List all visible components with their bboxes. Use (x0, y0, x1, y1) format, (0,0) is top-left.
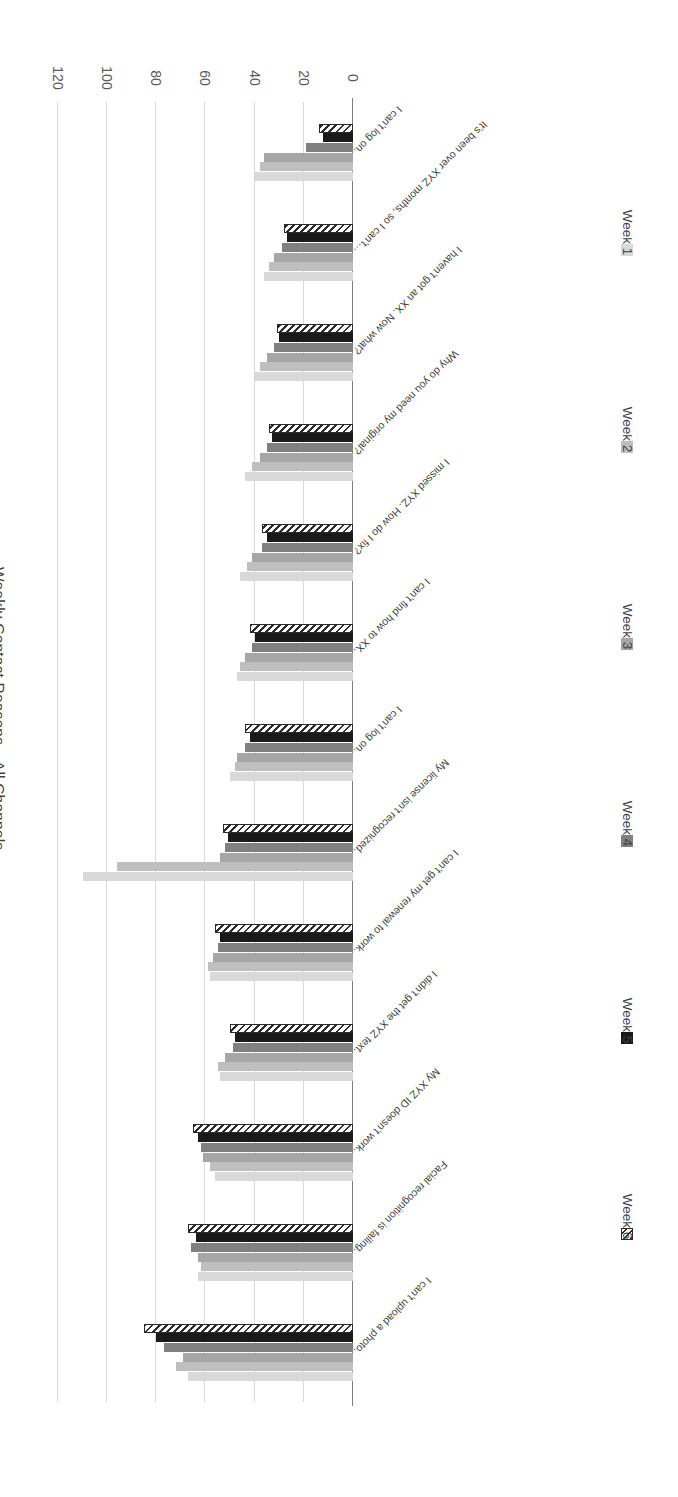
bar (233, 1043, 353, 1052)
bar (245, 743, 353, 752)
bar-group (58, 423, 353, 481)
bar (196, 1233, 353, 1242)
bar (255, 172, 353, 181)
category-label: I can’t get my renewal to work. (352, 721, 588, 957)
category-label: My license isn’t recognized. (352, 621, 588, 857)
bar (262, 524, 353, 533)
bar (230, 1024, 353, 1033)
bar-group (58, 823, 353, 881)
bar-group (58, 723, 353, 781)
bar (235, 1033, 353, 1042)
bar (274, 343, 353, 352)
bar (250, 624, 353, 633)
bar (265, 153, 354, 162)
bar (203, 1153, 353, 1162)
chart-legend: Week 1Week 2Week 3Week 4Week 5Week 6 (610, 102, 644, 1402)
category-label: I didn’t get the XYZ text. (352, 821, 588, 1057)
rotated-figure-wrapper: Weekly Contact Reasons—All Channels 0204… (0, 0, 678, 1497)
bar (272, 433, 353, 442)
legend-label: Week 4 (620, 768, 635, 878)
bar (324, 133, 354, 142)
bar (284, 224, 353, 233)
legend-item[interactable]: Week 4 (610, 727, 644, 847)
bar (250, 733, 353, 742)
bar (208, 962, 353, 971)
bar-group (58, 923, 353, 981)
value-tick-label: 40 (247, 64, 263, 92)
bar (201, 1262, 353, 1271)
bar (117, 862, 353, 871)
bar (306, 143, 353, 152)
bar (279, 333, 353, 342)
legend-label: Week 6 (620, 1162, 635, 1272)
bar (215, 924, 353, 933)
bar (220, 1072, 353, 1081)
bar (235, 762, 353, 771)
bar (319, 124, 353, 133)
bar (210, 972, 353, 981)
bar (198, 1133, 353, 1142)
bar (262, 543, 353, 552)
bar (237, 753, 353, 762)
value-tick-label: 120 (50, 64, 66, 92)
bar (260, 453, 353, 462)
bar (215, 1172, 353, 1181)
bar (267, 443, 353, 452)
bar-group (58, 623, 353, 681)
bar (225, 1053, 353, 1062)
bar (252, 643, 353, 652)
legend-item[interactable]: Week 3 (610, 530, 644, 650)
bar (240, 572, 353, 581)
legend-label: Week 5 (620, 965, 635, 1075)
legend-label: Week 3 (620, 571, 635, 681)
category-label: It’s been over XYZ months, so I can’t… (352, 21, 588, 257)
bar (201, 1143, 353, 1152)
chart-title: Weekly Contact Reasons—All Channels (0, 567, 8, 1067)
category-label: My XYZ ID doesn’t work. (352, 921, 588, 1157)
legend-label: Week 2 (620, 374, 635, 484)
bar-group (58, 1223, 353, 1281)
legend-item[interactable]: Week 1 (610, 136, 644, 256)
bar (267, 533, 353, 542)
bar-group (58, 523, 353, 581)
bar (193, 1124, 353, 1133)
bar (240, 662, 353, 671)
bar (183, 1353, 353, 1362)
bar (218, 943, 353, 952)
category-label: Facial recognition is failing. (352, 1021, 588, 1257)
plot-area (58, 102, 353, 1402)
bar (210, 1162, 353, 1171)
bar (176, 1362, 353, 1371)
value-tick-label: 0 (345, 64, 361, 92)
category-label: I haven’t got an XX. Now what? (352, 121, 588, 357)
category-label: Why do you need my original? (352, 221, 588, 457)
bar (230, 772, 353, 781)
bar (255, 372, 353, 381)
bar (220, 853, 353, 862)
bar (255, 633, 353, 642)
legend-item[interactable]: Week 5 (610, 924, 644, 1044)
bar (287, 233, 353, 242)
bar (83, 872, 353, 881)
bar (198, 1272, 353, 1281)
bar (282, 243, 353, 252)
bar (252, 462, 353, 471)
bar-group (58, 1323, 353, 1381)
value-tick-label: 80 (148, 64, 164, 92)
bar (269, 262, 353, 271)
category-label: I can’t log on. (352, 521, 588, 757)
bar (277, 324, 353, 333)
bar (252, 553, 353, 562)
bar (198, 1253, 353, 1262)
bar (267, 353, 353, 362)
bar (213, 953, 353, 962)
legend-item[interactable]: Week 2 (610, 333, 644, 453)
bar (260, 162, 353, 171)
value-tick-label: 20 (296, 64, 312, 92)
bar (188, 1224, 353, 1233)
bar (156, 1333, 353, 1342)
bar (245, 724, 353, 733)
value-tick-label: 100 (99, 64, 115, 92)
legend-item[interactable]: Week 6 (610, 1121, 644, 1241)
bar (237, 672, 353, 681)
